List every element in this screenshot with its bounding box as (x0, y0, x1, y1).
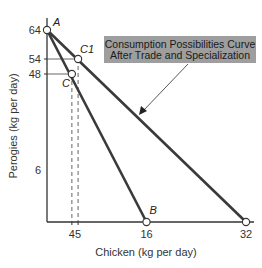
x-axis-label: Chicken (kg per day) (95, 246, 197, 258)
annotation-layer: Consumption Possibilities Curve After Tr… (104, 36, 256, 115)
annotation-arrowhead (139, 106, 147, 115)
point-label-c: C (62, 77, 70, 89)
y-axis-label: Perogies (kg per day) (7, 73, 19, 178)
x-tick-label: 16 (140, 228, 152, 240)
data-point (74, 55, 81, 62)
chart-svg: 4516326454486 AC1CB Consumption Possibil… (0, 0, 262, 268)
x-tick-label: 32 (240, 228, 252, 240)
point-label-b: B (150, 204, 157, 216)
x-tick-label: 5 (75, 228, 81, 240)
point-label-c1: C1 (80, 43, 94, 55)
data-point (242, 218, 249, 225)
x-tick-label: 4 (69, 228, 75, 240)
y-tick-label: 54 (29, 53, 41, 65)
annotation-line-2: After Trade and Specialization (110, 49, 250, 61)
y-tick-label: 6 (35, 164, 41, 176)
point-label-a: A (52, 16, 60, 28)
annotation-arrow-line (143, 64, 188, 111)
data-point (43, 26, 50, 33)
y-tick-label: 64 (29, 24, 41, 36)
data-point (143, 218, 150, 225)
y-tick-label: 48 (29, 68, 41, 80)
